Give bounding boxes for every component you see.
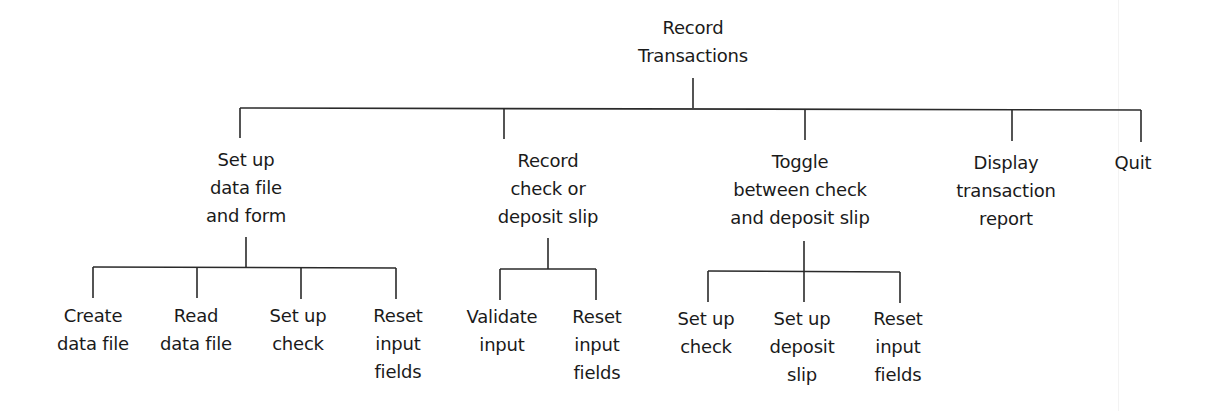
node-line: Reset <box>572 303 621 331</box>
node-setup-deposit-slip: Set up deposit slip <box>770 305 835 389</box>
node-line: Set up <box>770 305 835 333</box>
node-line: and deposit slip <box>730 204 869 232</box>
node-record-transactions: Record Transactions <box>638 14 748 70</box>
node-line: Read <box>160 302 232 330</box>
hierarchy-diagram: Record Transactions Set up data file and… <box>0 0 1225 411</box>
node-line: check <box>678 333 735 361</box>
node-line: input <box>572 331 621 359</box>
node-line: fields <box>572 359 621 387</box>
node-line: data file <box>160 330 232 358</box>
node-line: Transactions <box>638 42 748 70</box>
node-line: Toggle <box>730 148 869 176</box>
node-line: data file <box>57 330 129 358</box>
node-line: between check <box>730 176 869 204</box>
node-line: report <box>956 205 1055 233</box>
node-line: data file <box>206 174 286 202</box>
node-reset-input-fields: Reset input fields <box>572 303 621 387</box>
node-display-transaction-report: Display transaction report <box>956 149 1055 233</box>
node-line: fields <box>373 358 422 386</box>
node-line: check <box>270 330 327 358</box>
node-line: check or <box>498 175 599 203</box>
node-line: Record <box>498 147 599 175</box>
node-setup-check: Set up check <box>270 302 327 358</box>
node-validate-input: Validate input <box>467 303 538 359</box>
node-line: deposit <box>770 333 835 361</box>
node-line: slip <box>770 361 835 389</box>
node-quit: Quit <box>1115 149 1152 177</box>
node-line: input <box>873 333 922 361</box>
node-line: Quit <box>1115 149 1152 177</box>
node-line: Set up <box>206 146 286 174</box>
node-line: Set up <box>678 305 735 333</box>
node-line: Display <box>956 149 1055 177</box>
node-setup-data-file-and-form: Set up data file and form <box>206 146 286 230</box>
node-line: Validate <box>467 303 538 331</box>
node-setup-check: Set up check <box>678 305 735 361</box>
node-line: input <box>373 330 422 358</box>
node-line: Reset <box>873 305 922 333</box>
node-line: Record <box>638 14 748 42</box>
node-line: transaction <box>956 177 1055 205</box>
node-read-data-file: Read data file <box>160 302 232 358</box>
node-reset-input-fields: Reset input fields <box>873 305 922 389</box>
node-record-check-or-deposit-slip: Record check or deposit slip <box>498 147 599 231</box>
node-create-data-file: Create data file <box>57 302 129 358</box>
node-line: deposit slip <box>498 203 599 231</box>
node-toggle-check-deposit: Toggle between check and deposit slip <box>730 148 869 232</box>
node-line: Create <box>57 302 129 330</box>
node-line: input <box>467 331 538 359</box>
setup-bus <box>93 267 396 268</box>
toggle-bus <box>708 271 900 272</box>
node-line: and form <box>206 202 286 230</box>
node-reset-input-fields: Reset input fields <box>373 302 422 386</box>
node-line: Reset <box>373 302 422 330</box>
node-line: Set up <box>270 302 327 330</box>
node-line: fields <box>873 361 922 389</box>
level1-bus <box>240 108 1141 110</box>
